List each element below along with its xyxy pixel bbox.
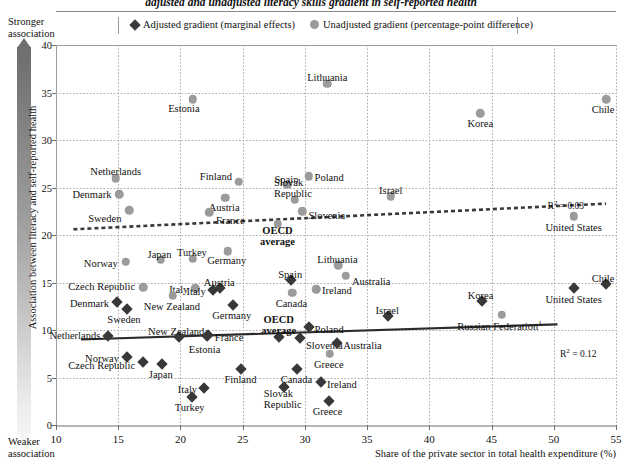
point-label: Denmark <box>70 298 109 309</box>
point-label: Czech Republic <box>68 281 135 292</box>
point-label: Spain <box>278 268 302 279</box>
x-axis-tick-mark <box>429 425 430 430</box>
point-label: Greece <box>313 406 343 417</box>
weaker-line1: Weaker <box>8 436 55 448</box>
point-label: Lithuania <box>317 254 357 265</box>
point-label: OECDaverage <box>261 314 296 336</box>
x-axis-tick-label: 45 <box>486 433 497 445</box>
point-label: Czech Republic <box>68 360 135 371</box>
x-axis-tick-mark <box>180 425 181 430</box>
r-squared-annotation: R2 = 0.12 <box>560 347 597 359</box>
legend-label-adjusted: Adjusted gradient (marginal effects) <box>143 19 295 30</box>
x-axis-tick-mark <box>56 425 57 430</box>
point-label: Sweden <box>107 314 140 325</box>
diamond-marker-icon <box>129 19 140 30</box>
point-label: Norway <box>84 257 118 268</box>
point-label: Australia <box>352 275 391 286</box>
point-label: United States <box>546 222 602 233</box>
x-axis-tick-mark <box>367 425 368 430</box>
y-axis-tick-label: 40 <box>28 40 52 51</box>
data-point-circle[interactable] <box>169 292 178 301</box>
point-label: Japan <box>148 248 172 259</box>
x-axis-tick-label: 50 <box>548 433 559 445</box>
point-label: Russian Federation1 <box>457 318 541 332</box>
chart-title: adjusted and unadjusted literacy skills … <box>96 0 526 9</box>
y-axis-tick-label: 15 <box>28 277 52 288</box>
point-label: Canada <box>276 297 308 308</box>
data-point-circle[interactable] <box>139 283 148 292</box>
data-point-circle[interactable] <box>288 289 297 298</box>
stronger-line1: Stronger <box>8 16 55 28</box>
y-axis-tick-label: 35 <box>28 87 52 98</box>
point-label: Finland <box>224 373 256 384</box>
legend-item-unadjusted[interactable]: Unadjusted gradient (percentage-point di… <box>310 19 533 30</box>
circle-marker-icon <box>310 20 319 29</box>
data-point-circle[interactable] <box>298 207 307 216</box>
x-axis-line <box>56 425 616 427</box>
point-label: Israel <box>379 185 402 196</box>
x-axis-tick-label: 40 <box>424 433 435 445</box>
point-label: United States <box>546 294 602 305</box>
point-label: Sweden <box>88 213 121 224</box>
chart-legend: Adjusted gradient (marginal effects) Una… <box>118 17 518 34</box>
data-point-circle[interactable] <box>476 109 485 118</box>
point-label: Chile <box>592 273 615 284</box>
stronger-association-note: Stronger association <box>8 16 55 39</box>
data-point-circle[interactable] <box>342 272 351 281</box>
point-label: Netherlands <box>50 329 101 340</box>
data-point-circle[interactable] <box>235 178 244 187</box>
point-label: Germany <box>207 255 246 266</box>
data-point-circle[interactable] <box>125 206 134 215</box>
point-label: Poland <box>315 324 344 335</box>
x-axis-tick-mark <box>492 425 493 430</box>
x-axis-tick-mark <box>616 425 617 430</box>
x-axis-tick-label: 55 <box>611 433 622 445</box>
r-squared-annotation: R2 = 0.03 <box>548 199 585 211</box>
point-label: France <box>216 215 245 226</box>
point-label: New Zealand <box>144 300 200 311</box>
y-axis-tick-label: 25 <box>28 182 52 193</box>
data-point-circle[interactable] <box>569 212 578 221</box>
point-label: Australia <box>343 340 382 351</box>
point-label: Austria <box>209 201 240 212</box>
x-axis-tick-label: 35 <box>362 433 373 445</box>
point-label: Germany <box>212 310 251 321</box>
point-label: Turkey <box>175 401 205 412</box>
data-point-circle[interactable] <box>602 95 611 104</box>
y-axis-tick-label: 20 <box>28 230 52 241</box>
title-divider <box>56 11 616 12</box>
point-label: OECDaverage <box>260 225 295 247</box>
data-point-circle[interactable] <box>312 285 321 294</box>
point-label: Finland <box>200 170 232 181</box>
x-axis-tick-mark <box>554 425 555 430</box>
x-axis-tick-label: 10 <box>51 433 62 445</box>
x-axis-tick-label: 25 <box>237 433 248 445</box>
y-axis-tick-label: 0 <box>28 420 52 431</box>
data-point-circle[interactable] <box>115 190 124 199</box>
y-axis-title: Association between literacy and self-re… <box>27 93 38 343</box>
legend-label-unadjusted: Unadjusted gradient (percentage-point di… <box>323 19 533 30</box>
point-label: Ireland <box>322 285 352 296</box>
point-label: Korea <box>468 289 494 300</box>
weaker-association-note: Weaker association <box>8 436 55 459</box>
point-label: Slovenia <box>308 210 345 221</box>
point-label: Lithuania <box>307 71 347 82</box>
point-label: Japan <box>149 369 173 380</box>
legend-item-adjusted[interactable]: Adjusted gradient (marginal effects) <box>131 19 295 30</box>
point-label: Israel <box>376 304 399 315</box>
data-point-circle[interactable] <box>205 208 214 217</box>
data-point-circle[interactable] <box>326 350 335 359</box>
point-label: Chile <box>592 104 615 115</box>
x-axis-tick-label: 30 <box>299 433 310 445</box>
stronger-line2: association <box>8 28 55 40</box>
x-axis-tick-label: 20 <box>175 433 186 445</box>
y-axis-tick-label: 30 <box>28 135 52 146</box>
point-label: SlovakRepublic <box>274 177 312 199</box>
point-label: Estonia <box>189 343 221 354</box>
x-axis-title: Share of the private sector in total hea… <box>375 448 616 459</box>
data-point-circle[interactable] <box>121 257 130 266</box>
point-label: SlovakRepublic <box>264 388 302 410</box>
weaker-line2: association <box>8 448 55 460</box>
point-label: Greece <box>314 358 344 369</box>
